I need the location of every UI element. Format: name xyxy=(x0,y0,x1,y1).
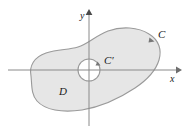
figure-container: y x C C′ D xyxy=(0,0,189,131)
inner-curve-label: C′ xyxy=(104,54,114,66)
x-axis-label: x xyxy=(169,73,175,84)
y-axis-arrow-icon xyxy=(86,9,93,15)
x-axis-arrow-icon xyxy=(176,67,182,74)
region-label: D xyxy=(58,85,67,97)
region-diagram: y x C C′ D xyxy=(0,0,189,131)
y-axis-label: y xyxy=(79,10,85,21)
outer-curve-label: C xyxy=(158,28,166,40)
